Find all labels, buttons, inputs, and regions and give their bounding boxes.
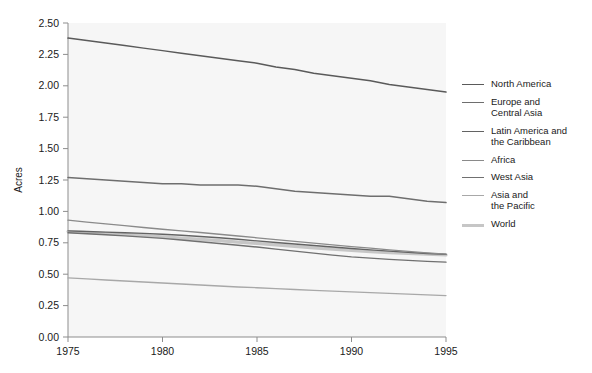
chart-legend: North AmericaEurope and Central AsiaLati… xyxy=(462,78,590,235)
x-tick-label: 1975 xyxy=(56,345,80,357)
y-tick-label: 1.25 xyxy=(39,174,60,186)
x-tick-label: 1980 xyxy=(151,345,175,357)
y-tick-label: 2.00 xyxy=(39,79,60,91)
x-tick-label: 1985 xyxy=(245,345,269,357)
legend-item[interactable]: Europe and Central Asia xyxy=(462,96,590,119)
legend-item[interactable]: World xyxy=(462,218,590,230)
x-tick-label: 1990 xyxy=(340,345,364,357)
legend-item[interactable]: Africa xyxy=(462,154,590,166)
x-tick-label: 1995 xyxy=(434,345,458,357)
x-axis: 19751980198519901995 xyxy=(56,337,458,357)
legend-item[interactable]: West Asia xyxy=(462,171,590,183)
legend-line-swatch xyxy=(462,195,484,196)
legend-item[interactable]: Asia and the Pacific xyxy=(462,189,590,212)
legend-label: West Asia xyxy=(491,171,533,183)
legend-line-swatch xyxy=(462,102,484,103)
y-tick-label: 0.00 xyxy=(39,331,60,343)
legend-line-swatch xyxy=(462,224,484,227)
chart-page: 0.000.250.500.751.001.251.501.752.002.25… xyxy=(0,0,592,373)
legend-label: Latin America and the Caribbean xyxy=(491,125,567,148)
y-tick-label: 0.50 xyxy=(39,268,60,280)
y-axis: 0.000.250.500.751.001.251.501.752.002.25… xyxy=(39,17,68,343)
legend-item[interactable]: Latin America and the Caribbean xyxy=(462,125,590,148)
legend-item[interactable]: North America xyxy=(462,78,590,90)
legend-line-swatch xyxy=(462,177,484,178)
y-tick-label: 1.50 xyxy=(39,142,60,154)
y-tick-label: 1.75 xyxy=(39,111,60,123)
y-tick-label: 0.75 xyxy=(39,236,60,248)
legend-label: Asia and the Pacific xyxy=(491,189,535,212)
y-tick-label: 2.25 xyxy=(39,48,60,60)
legend-label: North America xyxy=(491,78,551,90)
y-axis-title: Acres xyxy=(13,167,24,193)
plot-background xyxy=(68,23,446,337)
y-tick-label: 0.25 xyxy=(39,299,60,311)
y-tick-label: 1.00 xyxy=(39,205,60,217)
legend-line-swatch xyxy=(462,84,484,85)
y-tick-label: 2.50 xyxy=(39,17,60,29)
legend-label: World xyxy=(491,218,516,230)
legend-label: Africa xyxy=(491,154,515,166)
legend-line-swatch xyxy=(462,131,484,132)
legend-line-swatch xyxy=(462,160,484,161)
legend-label: Europe and Central Asia xyxy=(491,96,542,119)
